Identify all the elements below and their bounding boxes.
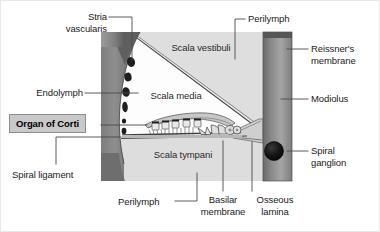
label-modiolus: Modiolus xyxy=(311,93,369,105)
label-basilar-membrane: Basilar membrane xyxy=(196,194,250,217)
label-spiral-ligament: Spiral ligament xyxy=(12,169,102,181)
cochlea-diagram-figure: Stria vascularis Endolymph Organ of Cort… xyxy=(0,0,380,232)
label-organ-of-corti: Organ of Corti xyxy=(9,114,86,133)
label-scala-vestibuli: Scala vestibuli xyxy=(161,42,241,54)
label-stria-vascularis: Stria vascularis xyxy=(49,11,107,34)
spiral-ganglion-dot xyxy=(265,142,284,161)
label-perilymph-top: Perilymph xyxy=(248,13,306,25)
label-scala-tympani: Scala tympani xyxy=(145,149,221,161)
label-endolymph: Endolymph xyxy=(25,87,83,99)
label-perilymph-bottom: Perilymph xyxy=(118,196,176,208)
label-spiral-ganglion: Spiral ganglion xyxy=(311,145,369,168)
label-scala-media: Scala media xyxy=(141,90,211,102)
label-reissners-membrane: Reissner's membrane xyxy=(311,43,380,66)
label-osseous-lamina: Osseous lamina xyxy=(250,194,300,217)
